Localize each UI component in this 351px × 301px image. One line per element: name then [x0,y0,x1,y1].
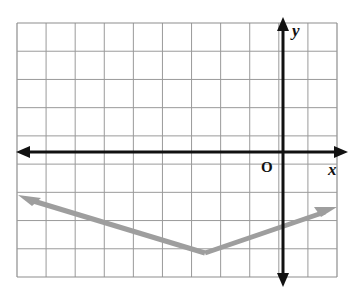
x-axis-label: x [327,160,337,179]
coordinate-plane-svg: y x O [0,0,351,301]
coordinate-plane-figure: y x O [0,0,351,301]
y-axis-label: y [290,21,300,40]
origin-label: O [261,159,273,175]
